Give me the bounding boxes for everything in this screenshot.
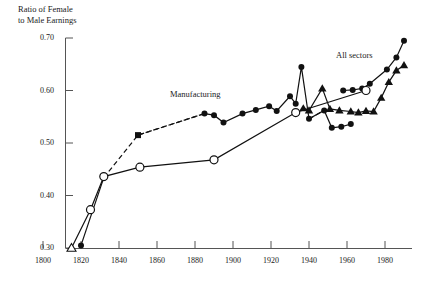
- data-point-circle: [287, 93, 293, 99]
- data-point-circle-open: [292, 109, 300, 117]
- series-line: [104, 114, 205, 178]
- x-tick-label: 1880: [180, 256, 210, 265]
- data-point-circle-open: [210, 156, 218, 164]
- y-tick-label: 0.40: [28, 191, 54, 200]
- data-point-circle-open: [136, 163, 144, 171]
- data-point-circle-open: [87, 206, 95, 214]
- data-point-circle: [350, 87, 356, 93]
- data-point-circle: [298, 64, 304, 70]
- earnings-ratio-chart: Ratio of Female to Male Earnings 0.300.4…: [0, 0, 424, 297]
- data-point-circle: [293, 101, 299, 107]
- data-point-circle: [202, 111, 208, 117]
- y-tick-label: 0.70: [28, 33, 54, 42]
- data-point-circle: [78, 242, 84, 248]
- data-point-circle: [348, 121, 354, 127]
- data-series-group: [67, 38, 408, 252]
- data-point-triangle: [377, 94, 385, 101]
- data-point-triangle: [299, 104, 307, 111]
- data-point-circle: [274, 108, 280, 114]
- series-line: [138, 114, 205, 136]
- data-point-circle: [253, 107, 259, 113]
- data-point-circle: [384, 67, 390, 73]
- data-point-triangle: [385, 78, 393, 85]
- data-point-triangle: [392, 66, 400, 73]
- x-tick-label: 1860: [142, 256, 172, 265]
- y-axis-ticks: [66, 38, 74, 248]
- data-point-triangle: [362, 107, 370, 114]
- x-tick-label: 1980: [370, 256, 400, 265]
- data-point-circle: [221, 120, 227, 126]
- x-tick-label: 1820: [66, 256, 96, 265]
- data-point-circle-open: [362, 87, 370, 95]
- data-point-circle: [393, 54, 399, 60]
- data-point-circle: [329, 125, 335, 131]
- data-point-triangle-open: [67, 244, 76, 252]
- x-tick-label: 1920: [256, 256, 286, 265]
- data-point-triangle: [400, 61, 408, 68]
- data-point-circle: [338, 124, 344, 130]
- data-point-circle-open: [100, 173, 108, 181]
- x-tick-label: 1960: [332, 256, 362, 265]
- x-tick-label: 1800: [28, 256, 58, 265]
- data-point-circle: [211, 112, 217, 118]
- data-point-square: [135, 132, 141, 138]
- series-line: [343, 41, 404, 91]
- series-line: [72, 91, 367, 249]
- y-tick-label: 0.60: [28, 86, 54, 95]
- data-point-circle: [240, 111, 246, 117]
- x-tick-label: 1840: [104, 256, 134, 265]
- data-point-triangle: [318, 84, 326, 91]
- data-point-triangle: [326, 105, 334, 112]
- data-point-circle: [340, 88, 346, 94]
- data-point-circle: [321, 107, 327, 113]
- data-point-circle: [266, 103, 272, 109]
- y-tick-label: 0.50: [28, 138, 54, 147]
- series-line: [205, 67, 351, 128]
- axes: [43, 38, 412, 249]
- data-point-circle: [367, 81, 373, 87]
- x-axis-ticks: [43, 241, 385, 249]
- series-label-manufacturing: Manufacturing: [170, 89, 221, 99]
- x-tick-label: 1900: [218, 256, 248, 265]
- series-label-all-sectors: All sectors: [336, 50, 373, 60]
- data-point-circle: [401, 38, 407, 44]
- data-point-circle: [306, 116, 312, 122]
- plot-area: [0, 0, 424, 297]
- y-tick-label: 0.30: [28, 243, 54, 252]
- x-tick-label: 1940: [294, 256, 324, 265]
